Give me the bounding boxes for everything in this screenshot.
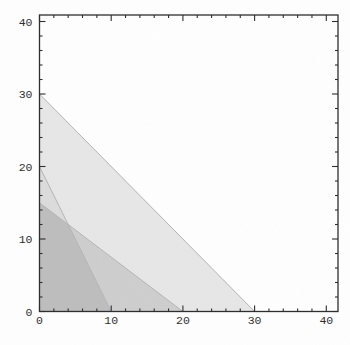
y-tick-label: 0 bbox=[26, 306, 33, 319]
x-tick-label: 10 bbox=[104, 314, 118, 327]
x-tick-label: 30 bbox=[248, 314, 262, 327]
x-tick-label: 0 bbox=[36, 314, 43, 327]
y-tick-label: 30 bbox=[19, 88, 33, 101]
plot-canvas: 010203040010203040 bbox=[0, 0, 350, 345]
y-tick-label: 20 bbox=[19, 161, 33, 174]
plot-content: 010203040010203040 bbox=[19, 15, 338, 327]
y-tick-label: 40 bbox=[19, 16, 33, 29]
x-tick-label: 20 bbox=[176, 314, 190, 327]
plot-figure: 010203040010203040 bbox=[0, 0, 350, 345]
y-tick-label: 10 bbox=[19, 233, 33, 246]
x-tick-label: 40 bbox=[319, 314, 333, 327]
